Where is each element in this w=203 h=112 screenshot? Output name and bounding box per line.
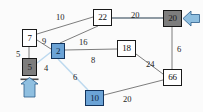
node-18[interactable]: 18 — [117, 40, 136, 57]
node-7[interactable]: 7 — [22, 29, 37, 47]
edge-label-5-2: 4 — [44, 64, 48, 73]
node-10-label: 10 — [90, 94, 98, 103]
arrow-source-5-icon — [21, 78, 39, 98]
node-7-label: 7 — [27, 34, 31, 43]
node-10[interactable]: 10 — [85, 90, 104, 106]
edge-label-22-20: 20 — [131, 11, 140, 20]
node-18-label: 18 — [122, 44, 130, 53]
node-2[interactable]: 2 — [51, 43, 65, 59]
node-20-label: 20 — [168, 14, 176, 23]
node-2-label: 2 — [56, 47, 60, 56]
node-22-label: 22 — [98, 13, 106, 22]
edge-5-2 — [37, 52, 51, 63]
arrow-sink-20-icon — [183, 11, 200, 26]
edge-label-7-2: 9 — [42, 37, 46, 46]
edge-10-66 — [104, 80, 163, 95]
edge-label-10-66: 20 — [123, 95, 132, 104]
edge-label-2-22: 16 — [79, 38, 88, 47]
edge-label-2-10: 6 — [73, 73, 77, 82]
node-66[interactable]: 66 — [163, 69, 182, 86]
edge-7-22 — [37, 17, 93, 34]
node-66-label: 66 — [168, 73, 176, 82]
edge-label-7-22: 10 — [56, 13, 65, 22]
node-5-label: 5 — [27, 63, 31, 72]
edge-label-7-5: 5 — [16, 50, 20, 59]
node-5[interactable]: 5 — [22, 58, 37, 76]
edge-2-18 — [65, 49, 117, 50]
edge-label-2-18: 8 — [91, 56, 95, 65]
edge-label-18-66: 24 — [146, 60, 155, 69]
node-22[interactable]: 22 — [93, 9, 112, 26]
graph-diagram-canvas: 7 5 2 22 20 18 66 10 10 9 16 20 5 4 8 6 … — [0, 0, 203, 112]
node-20[interactable]: 20 — [163, 10, 182, 27]
edge-label-20-66: 6 — [177, 45, 181, 54]
